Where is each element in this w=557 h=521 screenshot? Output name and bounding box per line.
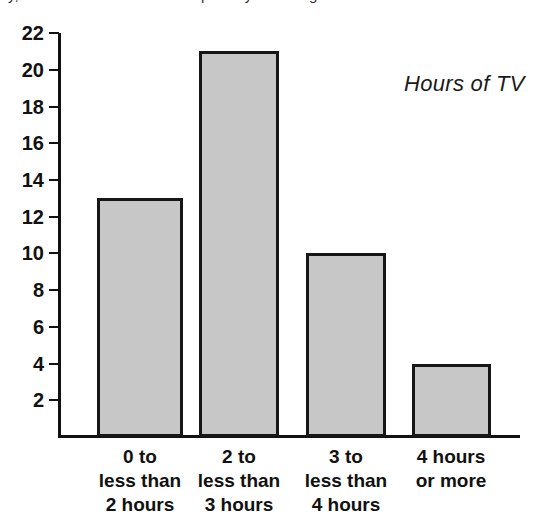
cropped-text-fragment: y, and more than four hours per day watc… bbox=[0, 0, 557, 9]
bar bbox=[97, 198, 183, 437]
x-axis-category-label: 4 hours or more bbox=[371, 445, 531, 493]
bar-chart-figure: y, and more than four hours per day watc… bbox=[0, 0, 557, 521]
y-axis-tick-label: 12 bbox=[0, 207, 44, 227]
y-axis-tick bbox=[49, 179, 59, 181]
y-axis-tick bbox=[49, 363, 59, 365]
bar bbox=[199, 51, 279, 437]
y-axis-tick-label: 18 bbox=[0, 97, 44, 117]
bar bbox=[412, 364, 491, 437]
y-axis-line bbox=[58, 33, 61, 438]
y-axis-tick-label: 8 bbox=[0, 280, 44, 300]
y-axis-tick-label: 16 bbox=[0, 133, 44, 153]
y-axis-tick bbox=[49, 252, 59, 254]
chart-title-annotation: Hours of TV bbox=[404, 71, 525, 97]
y-axis-tick-label: 22 bbox=[0, 23, 44, 43]
y-axis-tick bbox=[49, 32, 59, 34]
y-axis-tick-label: 14 bbox=[0, 170, 44, 190]
y-axis-tick-label: 10 bbox=[0, 243, 44, 263]
y-axis-tick-label: 20 bbox=[0, 60, 44, 80]
cropped-text-fragment-label: y, and more than four hours per day watc… bbox=[8, 0, 318, 3]
y-axis-tick bbox=[49, 106, 59, 108]
y-axis-tick bbox=[49, 142, 59, 144]
y-axis-tick-label: 4 bbox=[0, 354, 44, 374]
y-axis-tick bbox=[49, 326, 59, 328]
y-axis-tick-label: 2 bbox=[0, 390, 44, 410]
y-axis-tick-label: 6 bbox=[0, 317, 44, 337]
y-axis-tick bbox=[49, 399, 59, 401]
bar bbox=[306, 253, 386, 437]
y-axis-tick bbox=[49, 216, 59, 218]
y-axis-tick bbox=[49, 69, 59, 71]
y-axis-tick bbox=[49, 289, 59, 291]
